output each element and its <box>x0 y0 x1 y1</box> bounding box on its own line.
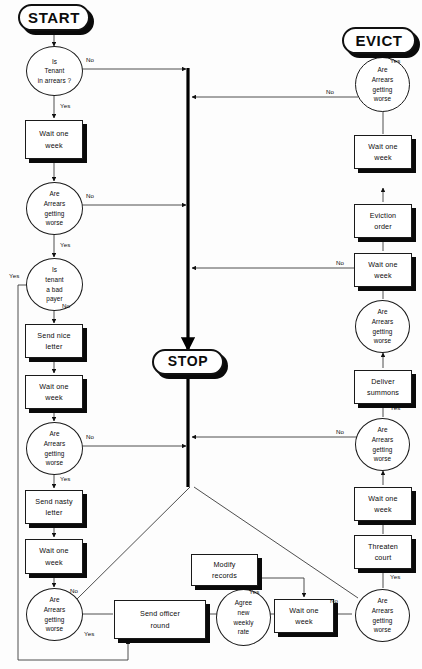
process-send-nice-letter: Send nice letter <box>25 324 83 358</box>
process-send-officer-round: Send officer round <box>114 600 206 639</box>
decision-agree-new-weekly-rate: Agree new weekly rate <box>216 589 271 646</box>
edge-label-worse1-yes: Yes <box>60 241 70 248</box>
edge-label-worse3-no: No <box>70 587 78 594</box>
edge-label-worse7-no: No <box>326 88 334 95</box>
process-deliver-summons: Deliver summons <box>354 370 412 404</box>
terminator-evict: EVICT <box>342 27 416 54</box>
edge-label-worse1-no: No <box>86 192 94 199</box>
edge-label-agree-yes: Yes <box>249 588 259 595</box>
edge-label-worse2-yes: Yes <box>60 475 70 482</box>
decision-tenant-in-arrears: Is Tenant in arrears ? <box>26 46 83 96</box>
process-wait-one-week-4: Wait one week <box>274 599 334 633</box>
edge-label-arrears-yes: Yes <box>60 102 70 109</box>
process-wait-one-week-6: Wait one week <box>354 253 412 287</box>
edge-label-worse4-yes: Yes <box>390 573 400 580</box>
process-wait-one-week-3: Wait one week <box>25 539 83 574</box>
edge-label-badpayer-yes: Yes <box>9 272 19 279</box>
process-wait-one-week-2: Wait one week <box>25 375 83 409</box>
process-modify-records: Modify records <box>191 554 258 586</box>
terminator-start: START <box>18 4 90 31</box>
edge-label-worse5-yes: Yes <box>390 404 400 411</box>
edge-label-arrears-no: No <box>86 56 94 63</box>
flowchart-canvas: START Is Tenant in arrears ? Wait one we… <box>0 0 422 669</box>
edge-label-worse6-no: No <box>336 259 344 266</box>
edge-label-worse2-no: No <box>86 433 94 440</box>
edge-label-badpayer-no: No <box>62 302 70 309</box>
process-threaten-court: Threaten court <box>354 535 412 569</box>
decision-tenant-bad-payer: Is tenant a bad payer <box>26 258 83 311</box>
edge-label-worse3-yes: Yes <box>84 630 94 637</box>
process-wait-one-week-5: Wait one week <box>354 487 412 521</box>
process-wait-one-week-1: Wait one week <box>25 120 83 159</box>
decision-arrears-worse-6: Are Arrears getting worse <box>355 300 410 353</box>
terminator-stop: STOP <box>152 349 224 375</box>
edge-label-worse6-yes: Yes <box>390 285 400 292</box>
process-wait-one-week-7: Wait one week <box>354 135 412 169</box>
edge-label-worse5-no: No <box>336 428 344 435</box>
process-send-nasty-letter: Send nasty letter <box>25 490 83 524</box>
edge-label-worse4-no: No <box>330 597 338 604</box>
decision-arrears-worse-1: Are Arrears getting worse <box>26 182 83 235</box>
decision-arrears-worse-5: Are Arrears getting worse <box>355 418 410 471</box>
process-eviction-order: Eviction order <box>354 204 412 238</box>
decision-arrears-worse-4: Are Arrears getting worse <box>355 589 410 642</box>
decision-arrears-worse-2: Are Arrears getting worse <box>26 422 83 475</box>
edge-label-worse7-yes: Yes <box>390 57 400 64</box>
decision-arrears-worse-7: Are Arrears getting worse <box>355 57 410 112</box>
decision-arrears-worse-3: Are Arrears getting worse <box>26 588 83 641</box>
